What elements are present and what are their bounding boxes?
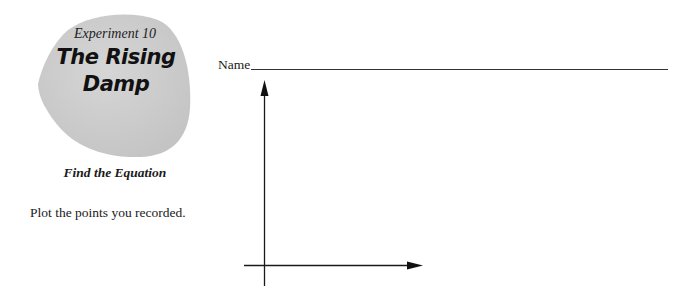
y-axis <box>261 80 269 286</box>
x-axis <box>244 262 423 270</box>
y-axis-arrow-icon <box>261 80 269 96</box>
x-axis-arrow-icon <box>407 262 423 270</box>
blank-graph-axes <box>0 0 683 298</box>
